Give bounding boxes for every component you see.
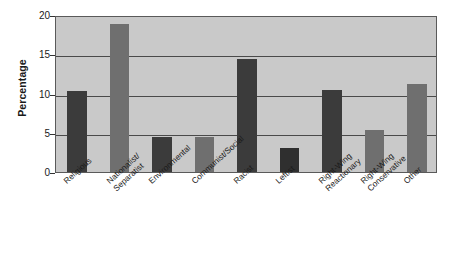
bar-chart-figure: Percentage 05101520 ReligiousNationalist… [0,0,455,258]
y-tick-label: 5 [28,129,50,139]
y-tick-mark [50,134,55,135]
bar [237,59,257,172]
y-tick-mark [50,173,55,174]
x-axis-tick-labels: ReligiousNationalist/SeparatistEnvironme… [0,173,455,258]
y-tick-label: 20 [28,11,50,21]
y-tick-label: 15 [28,50,50,60]
plot-area [55,16,437,173]
y-tick-mark [50,95,55,96]
bar [407,84,427,172]
y-tick-mark [50,55,55,56]
bar [110,24,130,172]
y-tick-label: 10 [28,90,50,100]
y-tick-mark [50,16,55,17]
bars-group [56,17,436,172]
